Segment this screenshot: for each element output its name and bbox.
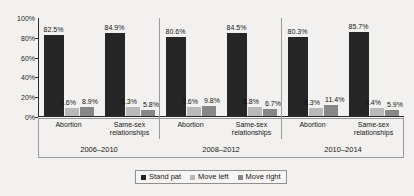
legend-label: Stand pat — [149, 173, 181, 181]
x-axis-line — [38, 116, 404, 117]
period-labels-row: 2006–2010 2008–2012 2010–2014 — [38, 142, 404, 158]
bar-group-abortion-2010-2014: 80.3% 8.3% 11.4% — [282, 18, 343, 116]
bar-group-same-sex-2008-2012: 84.5% 8.8% 6.7% — [221, 18, 282, 116]
legend-swatch-icon — [141, 175, 146, 180]
legend-item-move-right[interactable]: Move right — [238, 173, 281, 181]
period-label-2008-2012: 2008–2012 — [160, 142, 282, 158]
bar-value-label: 8.3% — [304, 99, 320, 107]
category-label-abortion: Abortion — [38, 120, 99, 142]
y-tick-label-80: 80% — [21, 34, 35, 41]
bar-group-same-sex-2006-2010: 84.9% 9.3% 5.8% — [99, 18, 160, 116]
bar-value-label: 80.3% — [288, 28, 308, 36]
panel-2008-2012: 80.6% 9.6% 9.8% 84.5% 8.8% — [160, 18, 282, 116]
bar-value-label: 6.7% — [265, 100, 281, 108]
legend-label: Move right — [246, 173, 281, 181]
bar-value-label: 8.8% — [243, 98, 259, 106]
bar-value-label: 8.4% — [365, 99, 381, 107]
period-label-2010-2014: 2010–2014 — [282, 142, 404, 158]
category-labels-row: Abortion Same-sex relationships Abortion… — [38, 120, 404, 142]
legend-swatch-icon — [238, 175, 243, 180]
bar-move-right[interactable]: 9.8% — [202, 106, 216, 116]
bar-move-left[interactable]: 9.6% — [187, 107, 201, 116]
panel-2006-2010: 82.5% 8.6% 8.9% 84.9% 9.3% — [38, 18, 160, 116]
y-tick-label-20: 20% — [21, 94, 35, 101]
y-tick-label-100: 100% — [17, 15, 35, 22]
bar-value-label: 5.8% — [143, 101, 159, 109]
category-label-abortion: Abortion — [160, 120, 221, 142]
label-box-top-border — [38, 118, 404, 119]
plot-area: 100% 80% 60% 40% 20% 0% 82.5% 8.6% 8.9% — [38, 18, 404, 117]
bar-value-label: 9.3% — [121, 98, 137, 106]
panels-container: 82.5% 8.6% 8.9% 84.9% 9.3% — [38, 18, 404, 116]
bar-move-right[interactable]: 6.7% — [263, 109, 277, 116]
bar-value-label: 11.4% — [325, 96, 344, 104]
bar-group-abortion-2008-2012: 80.6% 9.6% 9.8% — [160, 18, 221, 116]
bar-move-right[interactable]: 5.8% — [141, 110, 155, 116]
bar-group-same-sex-2010-2014: 85.7% 8.4% 5.9% — [343, 18, 404, 116]
legend-label: Move left — [198, 173, 228, 181]
grouped-bar-chart: 100% 80% 60% 40% 20% 0% 82.5% 8.6% 8.9% — [0, 0, 414, 196]
legend-item-move-left[interactable]: Move left — [190, 173, 228, 181]
category-label-abortion: Abortion — [282, 120, 343, 142]
category-panel-2010-2014: Abortion Same-sex relationships — [282, 120, 404, 142]
bar-value-label: 84.9% — [105, 24, 125, 32]
category-label-same-sex: Same-sex relationships — [343, 120, 404, 142]
category-label-same-sex: Same-sex relationships — [99, 120, 160, 142]
bar-value-label: 8.6% — [60, 99, 76, 107]
bar-value-label: 9.8% — [204, 97, 220, 105]
y-tick-label-40: 40% — [21, 74, 35, 81]
bar-move-right[interactable]: 8.9% — [80, 107, 94, 116]
bar-value-label: 84.5% — [227, 24, 247, 32]
bar-move-right[interactable]: 11.4% — [324, 105, 338, 116]
bar-value-label: 85.7% — [349, 23, 369, 31]
bar-value-label: 9.6% — [182, 98, 198, 106]
bar-move-left[interactable]: 8.4% — [370, 108, 384, 116]
bar-move-right[interactable]: 5.9% — [385, 110, 399, 116]
bar-value-label: 5.9% — [387, 101, 403, 109]
y-tick-label-0: 0% — [25, 114, 35, 121]
chart-legend: Stand pat Move left Move right — [135, 170, 287, 184]
bar-value-label: 8.9% — [82, 98, 98, 106]
legend-swatch-icon — [190, 175, 195, 180]
bar-value-label: 80.6% — [166, 28, 186, 36]
period-label-2006-2010: 2006–2010 — [38, 142, 160, 158]
y-tick-label-60: 60% — [21, 54, 35, 61]
legend-item-stand-pat[interactable]: Stand pat — [141, 173, 181, 181]
category-label-same-sex: Same-sex relationships — [221, 120, 282, 142]
bar-group-abortion-2006-2010: 82.5% 8.6% 8.9% — [38, 18, 99, 116]
bar-move-left[interactable]: 8.6% — [65, 108, 79, 116]
category-panel-2006-2010: Abortion Same-sex relationships — [38, 120, 160, 142]
bar-move-left[interactable]: 8.8% — [248, 107, 262, 116]
category-panel-2008-2012: Abortion Same-sex relationships — [160, 120, 282, 142]
bar-value-label: 82.5% — [44, 26, 64, 34]
panel-2010-2014: 80.3% 8.3% 11.4% 85.7% 8.4% — [282, 18, 404, 116]
bar-move-left[interactable]: 8.3% — [309, 108, 323, 116]
bar-move-left[interactable]: 9.3% — [126, 107, 140, 116]
